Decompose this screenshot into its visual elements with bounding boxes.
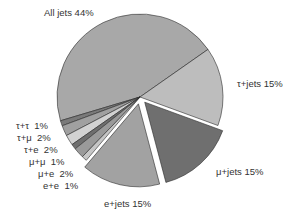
label-mu-jets: μ+jets 15% xyxy=(216,167,263,177)
label-e-e: e+e 1% xyxy=(43,181,78,191)
label-e-jets: e+jets 15% xyxy=(104,199,151,209)
label-mu-mu: μ+μ 1% xyxy=(29,157,65,167)
label-tau-e: τ+e 2% xyxy=(24,145,58,155)
label-all-jets: All jets 44% xyxy=(44,8,94,18)
label-mu-e: μ+e 2% xyxy=(38,169,73,179)
label-tau-mu: τ+μ 2% xyxy=(17,133,51,143)
label-tau-jets: τ+jets 15% xyxy=(237,79,283,89)
label-tau-tau: τ+τ 1% xyxy=(16,121,48,131)
